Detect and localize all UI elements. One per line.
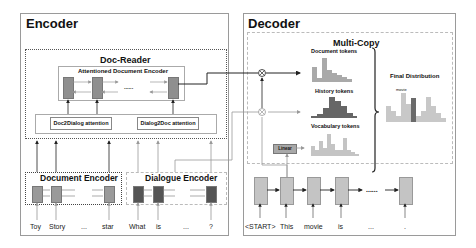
history-tokens-histogram <box>311 97 357 118</box>
multiply-node-icon <box>259 70 266 77</box>
final-distribution-histogram <box>386 93 446 122</box>
multiply-node-gray-icon <box>259 109 266 116</box>
vocabulary-tokens-histogram <box>311 134 359 156</box>
document-tokens-histogram <box>312 58 352 82</box>
diagram-connectors <box>0 0 476 248</box>
